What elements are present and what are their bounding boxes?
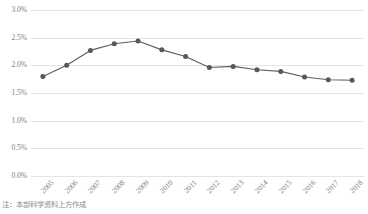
y-axis-tick-label: 3.0% <box>12 6 27 14</box>
data-point-marker <box>350 78 355 83</box>
data-point-marker <box>231 64 236 69</box>
x-axis-tick-label: 2018 <box>349 179 365 195</box>
y-axis-tick-label: 0.5% <box>12 145 27 153</box>
data-point-marker <box>326 77 331 82</box>
y-axis-tick-label: 1.5% <box>12 89 27 97</box>
y-axis-tick-label: 2.5% <box>12 34 27 42</box>
data-point-marker <box>302 74 307 79</box>
series-markers <box>40 38 354 82</box>
x-axis-tick-label: 2009 <box>135 179 151 195</box>
x-axis-tick-label: 2008 <box>111 179 127 195</box>
y-axis-tick-label: 1.0% <box>12 117 27 125</box>
line-series <box>31 10 364 176</box>
data-point-marker <box>40 74 45 79</box>
data-point-marker <box>183 54 188 59</box>
data-point-marker <box>207 65 212 70</box>
y-axis-tick-label: 2.0% <box>12 62 27 70</box>
y-axis: 0.0%0.5%1.0%1.5%2.0%2.5%3.0% <box>0 0 31 186</box>
data-point-marker <box>159 47 164 52</box>
y-axis-tick-label: 0.0% <box>12 172 27 180</box>
x-axis-tick-label: 2014 <box>253 179 269 195</box>
x-axis-tick-label: 2012 <box>206 179 222 195</box>
x-axis-tick-label: 2007 <box>87 179 103 195</box>
x-axis-tick-label: 2011 <box>182 179 198 195</box>
series-line <box>43 41 352 80</box>
x-axis: 2005200620072008200920102011201220132014… <box>31 176 364 202</box>
x-axis-tick-label: 2016 <box>301 179 317 195</box>
data-point-marker <box>254 67 259 72</box>
x-axis-tick-label: 2005 <box>39 179 55 195</box>
data-point-marker <box>278 69 283 74</box>
data-point-marker <box>88 48 93 53</box>
chart-container: 0.0%0.5%1.0%1.5%2.0%2.5%3.0% 20052006200… <box>0 0 368 214</box>
x-axis-tick-label: 2006 <box>63 179 79 195</box>
x-axis-tick-label: 2015 <box>277 179 293 195</box>
x-axis-tick-label: 2017 <box>325 179 341 195</box>
data-point-marker <box>136 38 141 43</box>
source-caption: 注：本部科学资料上方作成 <box>2 201 86 209</box>
data-point-marker <box>112 41 117 46</box>
x-axis-tick-label: 2010 <box>158 179 174 195</box>
x-axis-tick-label: 2013 <box>230 179 246 195</box>
plot-area <box>31 10 364 176</box>
data-point-marker <box>64 63 69 68</box>
